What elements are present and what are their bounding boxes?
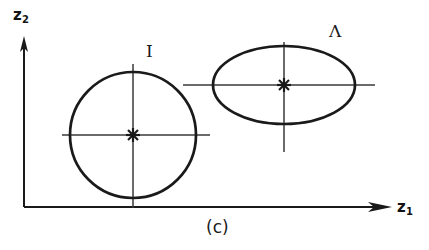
figure-container: z2 z1 I Λ (c): [0, 0, 429, 250]
y-axis-label-subscript: 2: [22, 14, 29, 25]
x-axis-label-base: z: [397, 198, 406, 216]
circle-shape-label: I: [146, 41, 153, 61]
ellipse-center-marker-icon: [277, 78, 291, 92]
y-axis-label-base: z: [13, 6, 22, 24]
shape-ellipse-lambda-group: [183, 42, 375, 152]
ellipse-shape-label: Λ: [329, 21, 341, 41]
x-axis-label-subscript: 1: [406, 206, 413, 217]
x-axis-label: z1: [397, 198, 413, 216]
figure-caption: (c): [206, 217, 229, 237]
axes-group: [20, 36, 392, 212]
circle-center-marker-icon: [126, 128, 140, 142]
figure-canvas: [0, 0, 429, 250]
y-axis-label: z2: [13, 6, 29, 24]
